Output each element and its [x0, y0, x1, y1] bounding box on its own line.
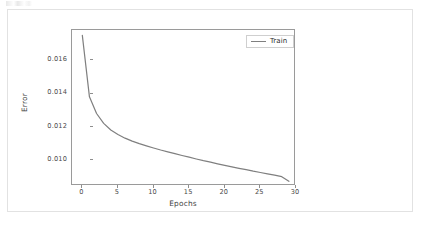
x-tick-mark: [153, 185, 154, 188]
series-line-train: [82, 35, 289, 181]
chart-line-svg: [72, 30, 296, 186]
x-tick-mark: [188, 185, 189, 188]
x-tick-mark: [224, 185, 225, 188]
image-artifact-smudge: [6, 1, 32, 6]
y-tick-label: 0.012: [33, 123, 67, 130]
y-tick-label: 0.016: [33, 56, 67, 63]
y-tick-mark: [90, 159, 93, 160]
x-tick-label: 0: [69, 189, 93, 196]
y-axis-tick-labels: 0.0100.0120.0140.016: [30, 10, 67, 226]
x-tick-label: 15: [176, 189, 200, 196]
y-tick-mark: [90, 126, 93, 127]
legend-line-swatch: [251, 41, 266, 42]
y-tick-label: 0.010: [33, 156, 67, 163]
plot-area: [71, 29, 295, 185]
x-tick-mark: [117, 185, 118, 188]
y-tick-mark: [90, 59, 93, 60]
chart-legend: Train: [246, 35, 294, 48]
y-tick-label: 0.014: [33, 89, 67, 96]
figure-frame: 0.0100.0120.0140.016 051015202530 Epochs…: [7, 9, 413, 212]
x-tick-mark: [295, 185, 296, 188]
x-tick-label: 30: [283, 189, 307, 196]
x-tick-label: 5: [105, 189, 129, 196]
y-axis-title: Error: [20, 73, 29, 133]
x-tick-label: 10: [141, 189, 165, 196]
x-tick-label: 25: [247, 189, 271, 196]
x-tick-mark: [259, 185, 260, 188]
y-tick-mark: [90, 93, 93, 94]
x-tick-label: 20: [212, 189, 236, 196]
x-axis-title: Epochs: [71, 199, 295, 208]
legend-label-train: Train: [270, 38, 287, 45]
x-tick-mark: [81, 185, 82, 188]
